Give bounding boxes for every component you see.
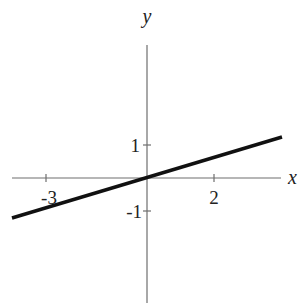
- y-tick-label-neg1: -1: [126, 201, 142, 222]
- x-axis-label: x: [287, 166, 297, 188]
- y-tick-label-1: 1: [131, 135, 141, 156]
- y-axis-label: y: [141, 5, 152, 28]
- line-chart: -3 2 1 -1 x y: [0, 0, 303, 303]
- x-tick-label-neg3: -3: [41, 187, 57, 208]
- x-tick-label-2: 2: [209, 187, 219, 208]
